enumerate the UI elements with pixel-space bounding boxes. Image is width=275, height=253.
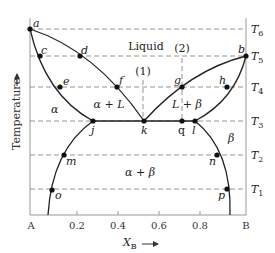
- label-k: k: [141, 124, 148, 137]
- point-j: [90, 118, 95, 123]
- label-m: m: [66, 155, 76, 168]
- temp-label-T3: T3: [251, 115, 263, 130]
- y-axis-title: Temperature: [10, 78, 23, 150]
- label-j: j: [88, 124, 95, 137]
- label-q: q: [178, 124, 185, 137]
- label-a: a: [33, 17, 40, 30]
- x-tick-label-B: B: [242, 220, 249, 231]
- label-o: o: [55, 189, 62, 202]
- label-l: l: [192, 124, 196, 137]
- composition-label-1: (1): [135, 65, 151, 78]
- point-q: [179, 118, 184, 123]
- label-f: f: [118, 74, 125, 87]
- composition-label-2: (2): [174, 42, 190, 55]
- svg-text:T2: T2: [251, 149, 263, 164]
- label-e: e: [63, 75, 70, 88]
- temp-label-T5: T5: [251, 50, 263, 65]
- svg-text:T6: T6: [251, 23, 263, 38]
- point-e: [57, 84, 62, 89]
- region-beta: β: [227, 132, 234, 145]
- temp-label-T4: T4: [251, 81, 263, 96]
- region-alpha: α: [51, 103, 59, 116]
- point-k: [141, 118, 146, 123]
- label-g: g: [174, 74, 181, 87]
- svg-text:T1: T1: [251, 183, 263, 198]
- svg-text:T4: T4: [251, 81, 263, 96]
- temp-label-T1: T1: [251, 183, 263, 198]
- x-tick-label-0.8: 0.8: [192, 220, 208, 231]
- solidus-right: [195, 56, 246, 121]
- point-a: [27, 26, 32, 31]
- x-tick-label-0.4: 0.4: [110, 220, 126, 231]
- liquidus-right: [144, 56, 246, 121]
- point-p: [224, 186, 229, 191]
- label-h: h: [219, 74, 226, 87]
- region-liquid: Liquid: [128, 40, 164, 53]
- label-b: b: [238, 43, 245, 56]
- region-alpha-L: α + L: [94, 98, 125, 111]
- svg-text:T5: T5: [251, 50, 263, 65]
- x-axis-title: XB: [122, 236, 137, 251]
- point-l: [192, 118, 197, 123]
- phase-diagram: a b c d e f g h j k q l m n o p Liquid α…: [0, 0, 275, 253]
- x-tick-label-A: A: [26, 220, 35, 231]
- label-c: c: [41, 44, 47, 57]
- x-tick-label-0.6: 0.6: [151, 220, 167, 231]
- x-tick-label-0.2: 0.2: [69, 220, 85, 231]
- temp-label-T6: T6: [251, 23, 263, 38]
- label-p: p: [218, 189, 225, 202]
- label-n: n: [209, 155, 216, 168]
- svg-text:T3: T3: [251, 115, 263, 130]
- svg-text:XB: XB: [122, 236, 137, 251]
- temp-label-T2: T2: [251, 149, 263, 164]
- region-alpha-beta: α + β: [125, 166, 155, 179]
- label-d: d: [81, 44, 88, 57]
- point-o: [49, 187, 54, 192]
- region-L-beta: L + β: [171, 98, 202, 111]
